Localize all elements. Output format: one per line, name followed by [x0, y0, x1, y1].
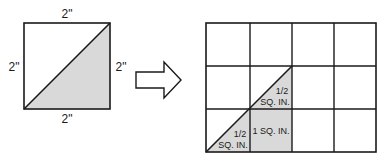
right-arrow-icon	[136, 62, 181, 98]
upper-unit-label: SQ. IN.	[260, 97, 290, 107]
left-side-label: 2"	[9, 60, 20, 74]
full-square-label: 1 SQ. IN.	[252, 126, 289, 136]
grid: 1/2 SQ. IN. 1/2 SQ. IN. 1 SQ. IN.	[206, 23, 376, 152]
left-square: 2" 2" 2" 2"	[9, 7, 127, 126]
lower-unit-label: SQ. IN.	[218, 140, 248, 150]
top-side-label: 2"	[62, 7, 73, 21]
bottom-side-label: 2"	[62, 112, 73, 126]
lower-fraction-label: 1/2	[234, 129, 247, 139]
diagram-canvas: 2" 2" 2" 2" 1/2 SQ. IN. 1/2 SQ. IN. 1 SQ…	[0, 0, 387, 161]
right-side-label: 2"	[116, 60, 127, 74]
upper-fraction-label: 1/2	[276, 86, 289, 96]
